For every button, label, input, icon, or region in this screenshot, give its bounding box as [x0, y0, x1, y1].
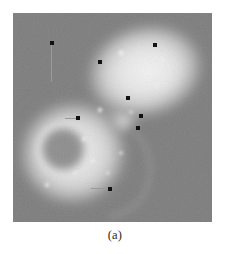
seed-point-1[interactable] [50, 41, 54, 45]
seed-point-7[interactable] [136, 126, 140, 130]
seed-point-6[interactable] [139, 114, 143, 118]
seed-point-3[interactable] [98, 60, 102, 64]
figure-root: (a) [0, 0, 230, 254]
image-grain [13, 13, 212, 222]
seed-point-8[interactable] [108, 187, 112, 191]
seed-point-2[interactable] [153, 43, 157, 47]
seed-tail-1 [51, 45, 52, 82]
grayscale-image-panel [13, 13, 212, 222]
figure-caption: (a) [0, 228, 230, 243]
grayscale-image-svg [13, 13, 212, 222]
seed-point-5[interactable] [76, 116, 80, 120]
seed-point-4[interactable] [126, 96, 130, 100]
